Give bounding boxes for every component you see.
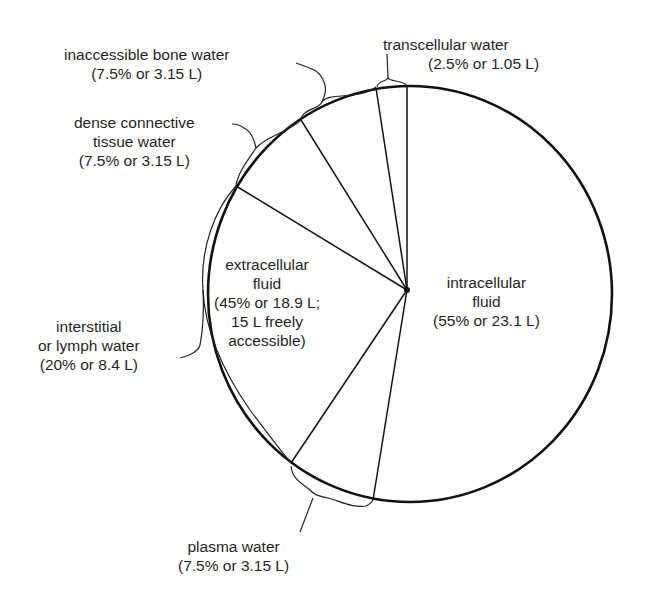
label-dense-connective-tissue-water: dense connective tissue water (7.5% or 3… bbox=[74, 113, 195, 170]
label-transcellular-water: transcellular water (2.5% or 1.05 L) bbox=[383, 35, 539, 73]
label-inaccessible-bone-water: inaccessible bone water (7.5% or 3.15 L) bbox=[64, 45, 229, 83]
body-water-pie-chart bbox=[0, 0, 653, 601]
brace-connective bbox=[236, 120, 301, 186]
label-plasma-water: plasma water (7.5% or 3.15 L) bbox=[178, 537, 289, 575]
label-extracellular-fluid: extracellular fluid (45% or 18.9 L; 15 L… bbox=[214, 255, 320, 350]
pie-center-dot bbox=[404, 287, 410, 293]
label-interstitial-lymph-water: interstitial or lymph water (20% or 8.4 … bbox=[38, 317, 140, 374]
divider-plasma-intracellular bbox=[373, 290, 407, 500]
label-intracellular-fluid: intracellular fluid (55% or 23.1 L) bbox=[433, 273, 540, 330]
divider-transcellular bbox=[376, 88, 407, 290]
